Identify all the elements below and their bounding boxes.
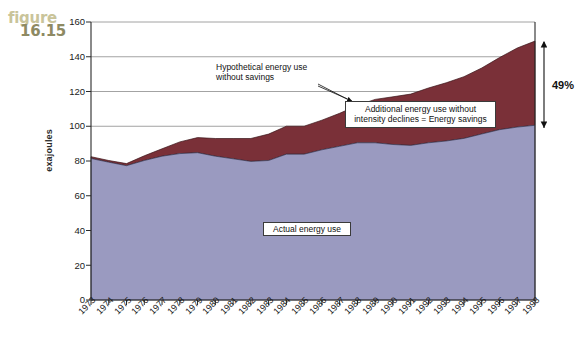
y-tick-label-20: 20 xyxy=(59,261,85,271)
y-tick-label-160: 160 xyxy=(59,17,85,27)
y-tick-label-60: 60 xyxy=(59,191,85,201)
y-axis-ticks xyxy=(86,22,91,300)
annotation-savings-percent: 49% xyxy=(552,79,574,91)
annotation-actual-energy-use: Actual energy use xyxy=(263,222,351,236)
y-tick-label-80: 80 xyxy=(59,156,85,166)
y-tick-label-40: 40 xyxy=(59,226,85,236)
annotation-hypothetical-energy-use: Hypothetical energy use without savings xyxy=(216,62,320,83)
annotation-additional-energy-use: Additional energy use without intensity … xyxy=(345,101,496,128)
y-tick-label-100: 100 xyxy=(59,121,85,131)
y-tick-label-120: 120 xyxy=(59,87,85,97)
y-tick-label-140: 140 xyxy=(59,52,85,62)
